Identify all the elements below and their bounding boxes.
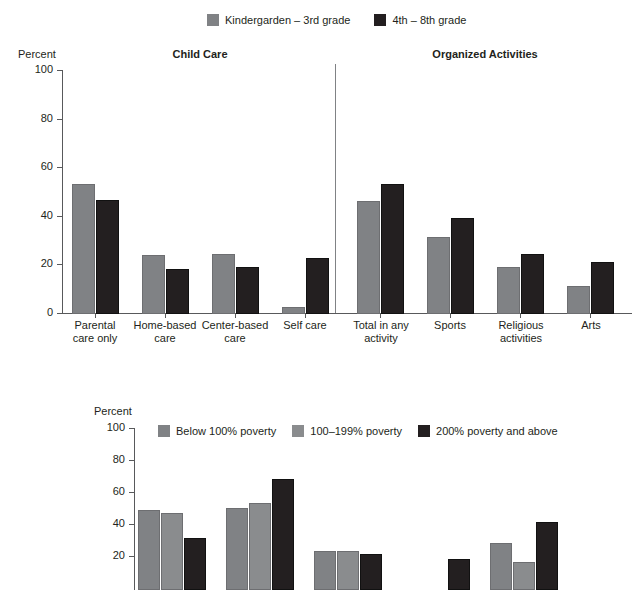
bar-200-poverty-and-above-group-3 [360,554,382,590]
bottom-chart-plot: 100 80 60 40 20 [0,0,640,590]
bar-below-100-poverty-group-2 [226,508,248,590]
bar-200-poverty-and-above-group-2 [272,479,294,590]
bottom-chart-tick-100 [129,428,134,429]
bar-100-199-poverty-group-3 [337,551,359,590]
bottom-chart-tick-label-20: 20 [94,549,125,561]
bottom-chart-tick-80 [129,460,134,461]
bottom-chart-tick-60 [129,492,134,493]
bar-below-100-poverty-group-1 [138,510,160,590]
bottom-chart-tick-label-80: 80 [94,453,125,465]
bottom-chart-tick-label-60: 60 [94,485,125,497]
bottom-chart-tick-20 [129,556,134,557]
bar-below-100-poverty-group-5 [490,543,512,590]
bottom-chart-tick-label-100: 100 [94,421,125,433]
bar-200-poverty-and-above-group-1 [184,538,206,590]
bottom-chart-tick-label-40: 40 [94,517,125,529]
bar-100-199-poverty-group-5 [513,562,535,590]
bar-100-199-poverty-group-2 [249,503,271,590]
bar-200-poverty-and-above-group-4 [448,559,470,590]
bar-100-199-poverty-group-1 [161,513,183,590]
bar-below-100-poverty-group-3 [314,551,336,590]
bottom-chart-tick-40 [129,524,134,525]
bottom-chart-y-axis-line [134,428,135,590]
bar-200-poverty-and-above-group-5 [536,522,558,590]
bottom-chart: Percent Below 100% poverty 100–199% pove… [0,0,640,590]
